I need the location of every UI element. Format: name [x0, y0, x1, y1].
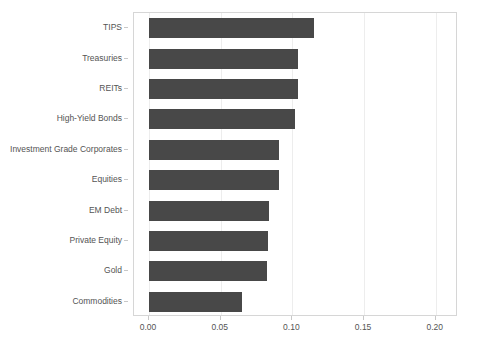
y-axis-tick — [124, 210, 128, 211]
y-axis-label-investment-grade-corporates: Investment Grade Corporates — [10, 144, 122, 154]
y-axis-label-treasuries: Treasuries — [82, 53, 122, 63]
bar-em-debt[interactable] — [149, 201, 269, 221]
bar-treasuries[interactable] — [149, 49, 298, 69]
bar-commodities[interactable] — [149, 292, 242, 312]
x-axis-tick-0.15 — [363, 316, 364, 320]
plot-area — [133, 12, 457, 316]
y-axis-label-reits: REITs — [99, 83, 122, 93]
y-axis-label-high-yield-bonds: High-Yield Bonds — [57, 113, 122, 123]
bar-row[interactable] — [134, 49, 456, 69]
y-axis-tick — [124, 179, 128, 180]
y-axis-label-gold: Gold — [104, 265, 122, 275]
bar-private-equity[interactable] — [149, 231, 268, 251]
bar-row[interactable] — [134, 170, 456, 190]
bar-row[interactable] — [134, 292, 456, 312]
y-axis-tick — [124, 270, 128, 271]
bar-high-yield-bonds[interactable] — [149, 109, 295, 129]
x-axis-tick-0.00 — [148, 316, 149, 320]
x-axis-label-0.00: 0.00 — [140, 322, 157, 332]
bar-row[interactable] — [134, 140, 456, 160]
y-axis-label-private-equity: Private Equity — [70, 235, 122, 245]
bar-tips[interactable] — [149, 18, 314, 38]
y-axis-labels: TIPSTreasuriesREITsHigh-Yield BondsInves… — [0, 12, 128, 316]
bar-row[interactable] — [134, 231, 456, 251]
x-axis-label-0.05: 0.05 — [211, 322, 228, 332]
bar-row[interactable] — [134, 261, 456, 281]
y-axis-label-commodities: Commodities — [72, 296, 122, 306]
y-axis-tick — [124, 58, 128, 59]
y-axis-tick — [124, 149, 128, 150]
bar-row[interactable] — [134, 201, 456, 221]
bars-layer — [134, 13, 456, 315]
x-axis-tick-0.10 — [291, 316, 292, 320]
y-axis-tick — [124, 240, 128, 241]
x-axis-tick-0.20 — [435, 316, 436, 320]
bar-chart: TIPSTreasuriesREITsHigh-Yield BondsInves… — [0, 0, 477, 353]
bar-equities[interactable] — [149, 170, 279, 190]
y-axis-label-tips: TIPS — [103, 22, 122, 32]
y-axis-tick — [124, 27, 128, 28]
x-axis-tick-0.05 — [220, 316, 221, 320]
y-axis-label-equities: Equities — [92, 174, 122, 184]
y-axis-label-em-debt: EM Debt — [89, 205, 122, 215]
bar-reits[interactable] — [149, 79, 298, 99]
bar-row[interactable] — [134, 79, 456, 99]
bar-gold[interactable] — [149, 261, 267, 281]
bar-row[interactable] — [134, 18, 456, 38]
bar-investment-grade-corporates[interactable] — [149, 140, 279, 160]
x-axis-label-0.10: 0.10 — [283, 322, 300, 332]
x-axis-label-0.15: 0.15 — [355, 322, 372, 332]
y-axis-tick — [124, 88, 128, 89]
y-axis-tick — [124, 301, 128, 302]
x-axis: 0.000.050.100.150.20 — [133, 316, 457, 353]
y-axis-tick — [124, 118, 128, 119]
x-axis-label-0.20: 0.20 — [426, 322, 443, 332]
bar-row[interactable] — [134, 109, 456, 129]
